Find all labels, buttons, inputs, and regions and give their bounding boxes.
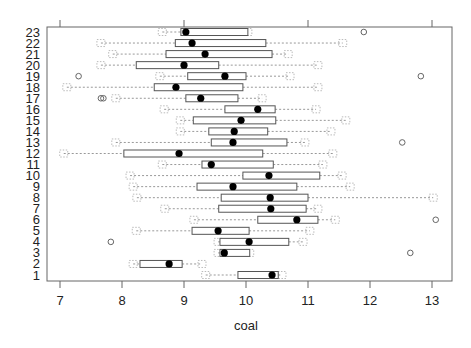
box-row-3 xyxy=(214,249,413,256)
box-row-23 xyxy=(158,28,366,35)
iqr-box xyxy=(221,194,308,201)
iqr-box xyxy=(225,106,275,113)
box-row-14 xyxy=(176,128,335,135)
median-dot xyxy=(180,62,187,69)
median-dot xyxy=(237,117,244,124)
outlier-point xyxy=(361,29,367,35)
x-tick-label: 9 xyxy=(180,293,187,308)
iqr-box xyxy=(197,183,297,190)
box-row-8 xyxy=(133,194,437,201)
box-row-11 xyxy=(158,161,327,168)
median-dot xyxy=(201,50,208,57)
iqr-box xyxy=(211,139,287,146)
outlier-point xyxy=(418,73,424,79)
outlier-point xyxy=(76,73,82,79)
iqr-box xyxy=(181,29,248,36)
median-dot xyxy=(208,161,215,168)
median-dot xyxy=(229,139,236,146)
median-dot xyxy=(166,260,173,267)
box-row-13 xyxy=(112,139,405,146)
box-row-16 xyxy=(160,106,320,113)
top-axis-ticks xyxy=(60,20,432,27)
median-dot xyxy=(215,227,222,234)
median-dot xyxy=(221,249,228,256)
median-dot xyxy=(172,84,179,91)
median-dot xyxy=(268,271,275,278)
box-row-2 xyxy=(129,260,206,267)
box-series xyxy=(60,28,439,278)
median-dot xyxy=(175,150,182,157)
median-dot xyxy=(293,216,300,223)
boxplot-chart: 78910111213 1234567891011121314151617181… xyxy=(0,0,471,348)
median-dot xyxy=(267,205,274,212)
median-dot xyxy=(229,183,236,190)
box-row-18 xyxy=(63,84,322,91)
box-row-10 xyxy=(126,172,346,179)
iqr-box xyxy=(124,150,263,157)
iqr-box xyxy=(193,117,275,124)
iqr-box xyxy=(154,84,243,91)
x-axis-title: coal xyxy=(234,318,258,333)
box-row-9 xyxy=(129,183,354,190)
x-tick-label: 8 xyxy=(118,293,125,308)
median-dot xyxy=(265,172,272,179)
y-axis: 1234567891011121314151617181920212223 xyxy=(26,25,40,283)
box-row-20 xyxy=(97,62,322,69)
iqr-box xyxy=(258,216,318,223)
box-row-19 xyxy=(76,73,424,80)
x-tick-label: 11 xyxy=(301,293,315,308)
outlier-point xyxy=(108,239,114,245)
iqr-box xyxy=(219,205,306,212)
iqr-box xyxy=(243,172,320,179)
box-row-6 xyxy=(190,216,439,223)
iqr-box xyxy=(136,62,218,69)
median-dot xyxy=(254,106,261,113)
median-dot xyxy=(188,39,195,46)
box-row-22 xyxy=(97,39,347,46)
box-row-17 xyxy=(98,95,266,102)
iqr-box xyxy=(220,238,289,245)
iqr-box xyxy=(186,95,238,102)
y-tick-label: 23 xyxy=(26,25,40,40)
box-row-12 xyxy=(60,150,337,157)
median-dot xyxy=(267,194,274,201)
box-row-15 xyxy=(176,117,350,124)
x-tick-label: 12 xyxy=(363,293,377,308)
x-tick-label: 7 xyxy=(56,293,63,308)
median-dot xyxy=(231,128,238,135)
median-dot xyxy=(221,73,228,80)
iqr-box xyxy=(140,260,182,267)
box-row-7 xyxy=(161,205,322,212)
outlier-point xyxy=(399,140,405,146)
iqr-box xyxy=(188,73,246,80)
box-row-1 xyxy=(202,271,286,278)
box-row-21 xyxy=(109,50,292,57)
iqr-box xyxy=(166,51,272,58)
x-axis: 78910111213 xyxy=(56,281,439,308)
median-dot xyxy=(246,238,253,245)
median-dot xyxy=(182,28,189,35)
box-row-5 xyxy=(132,227,314,234)
x-tick-label: 13 xyxy=(425,293,439,308)
median-dot xyxy=(197,95,204,102)
x-tick-label: 10 xyxy=(239,293,253,308)
iqr-box xyxy=(209,128,268,135)
outlier-point xyxy=(433,217,439,223)
box-row-4 xyxy=(108,238,307,245)
outlier-point xyxy=(408,250,414,256)
